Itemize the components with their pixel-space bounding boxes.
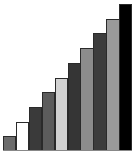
bar-9 [106, 19, 119, 151]
x-axis-baseline [3, 150, 132, 151]
bar-1 [3, 136, 16, 151]
bar-8 [93, 33, 106, 151]
bar-3 [29, 107, 42, 151]
bar-6 [68, 63, 81, 151]
bar-chart-plot [3, 0, 132, 151]
bar-4 [42, 92, 55, 151]
bar-2 [16, 122, 29, 151]
bar-5 [55, 78, 68, 152]
bar-10 [119, 4, 132, 151]
bar-7 [80, 48, 93, 151]
